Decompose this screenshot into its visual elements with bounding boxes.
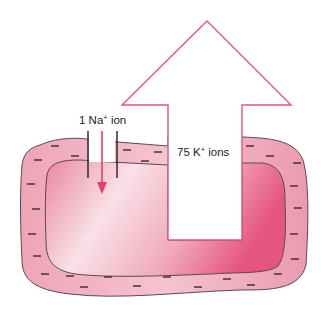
ion-flux-diagram: 1 Na+ ion 75 K+ ions <box>0 0 324 309</box>
sodium-ion-label: 1 Na+ ion <box>79 113 126 126</box>
cytoplasm <box>45 160 285 276</box>
